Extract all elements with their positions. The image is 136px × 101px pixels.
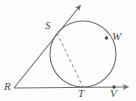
vertex-label-r: R: [4, 81, 11, 92]
vertex-label-s: S: [45, 20, 51, 31]
geometry-canvas: [0, 0, 136, 101]
geometry-figure: R S T V W: [0, 0, 136, 101]
vertex-label-v: V: [110, 88, 117, 99]
vertex-label-t: T: [78, 88, 84, 99]
vertex-label-w: W: [112, 31, 121, 42]
point-marker-w: [105, 36, 108, 39]
